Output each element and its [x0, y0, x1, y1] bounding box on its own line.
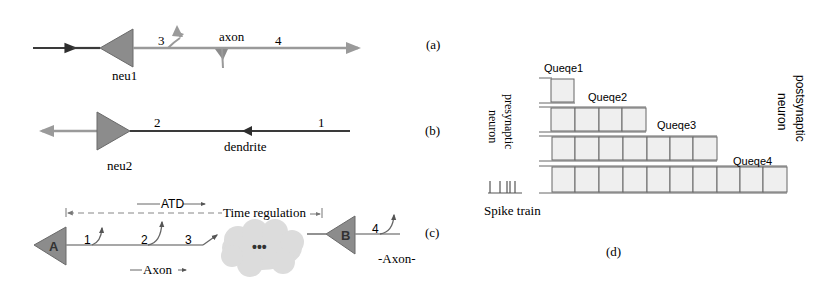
dendrite-label: dendrite: [224, 139, 267, 154]
presynaptic-label: presynaptic: [502, 94, 516, 149]
point-1-label: 1: [318, 115, 325, 130]
neuron-a-label: A: [49, 239, 59, 254]
spike-train-icon: [488, 181, 522, 193]
panel-a: [33, 25, 358, 68]
queue-3-label: Queqe3: [657, 119, 696, 131]
queue-3: [539, 136, 717, 161]
point-4-label-c: 4: [372, 222, 379, 236]
panel-c-label: (c): [425, 225, 439, 240]
point-3-label-c: 3: [185, 233, 192, 247]
axon-label-right: -Axon-: [378, 251, 416, 266]
point-2-label-c: 2: [141, 233, 148, 247]
spike-train-label: Spike train: [484, 203, 541, 218]
point-4-label: 4: [275, 33, 282, 48]
panel-b: [42, 112, 350, 150]
neuron-neu1-label: neu1: [112, 68, 137, 83]
diagram-canvas: 3 axon 4 neu1 (a) 2 1 dendrite neu2 (b): [0, 0, 837, 285]
postsynaptic-label: postsynaptic: [793, 75, 807, 142]
panel-d: [488, 78, 787, 193]
presynaptic-neuron-label: neuron: [486, 110, 500, 143]
axon-label-left: Axon: [143, 262, 172, 277]
cloud-ellipsis: •••: [252, 239, 267, 255]
panel-d-label: (d): [606, 244, 621, 259]
axon-label: axon: [219, 29, 245, 44]
queue-4: [539, 166, 787, 193]
neuron-b-label: B: [341, 228, 350, 243]
atd-label: ATD: [161, 197, 184, 211]
queue-2: [539, 107, 646, 132]
queue-4-label: Queqe4: [733, 155, 772, 167]
point-1-label-c: 1: [84, 233, 91, 247]
queue-1: [539, 78, 575, 103]
neuron-neu1-icon: [100, 29, 133, 67]
point-2-label: 2: [154, 115, 161, 130]
neuron-neu2-icon: [97, 112, 130, 150]
time-regulation-label: Time regulation: [223, 205, 306, 220]
postsynaptic-neuron-label: neuron: [775, 93, 789, 130]
neuron-neu2-label: neu2: [107, 158, 132, 173]
queue-2-label: Queqe2: [588, 91, 627, 103]
panel-a-label: (a): [426, 37, 440, 52]
panel-b-label: (b): [425, 123, 440, 138]
point-3-label: 3: [158, 33, 165, 48]
queue-1-label: Queqe1: [544, 62, 583, 74]
